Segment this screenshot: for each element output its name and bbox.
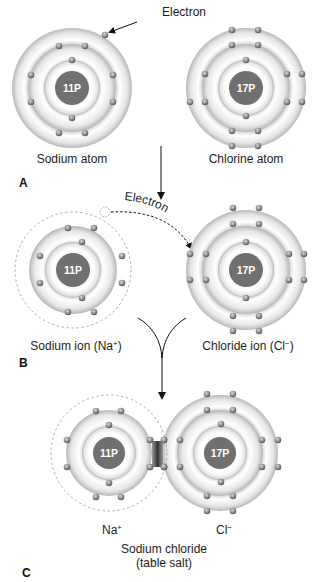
panel-label-b: B xyxy=(19,357,28,370)
compound-label: Sodium chloride xyxy=(121,543,207,556)
empty-electron-position xyxy=(100,207,110,217)
electron-callout-pointer xyxy=(110,22,137,32)
chloride-ion-text: Chloride ion (Cl xyxy=(202,339,285,353)
sodium-ion-text: Sodium ion (Na xyxy=(30,339,113,353)
nacl-sodium-nucleus-label: 11P xyxy=(100,447,118,459)
sodium-nucleus-label: 11P xyxy=(63,82,81,94)
electron-callout-label: Electron xyxy=(162,6,206,19)
diagram-canvas: 11P 17P 11P 17P 11P 17P Electron xyxy=(0,0,322,582)
compound-sublabel: (table salt) xyxy=(136,557,192,570)
cl-text: Cl xyxy=(216,523,227,537)
panel-label-c: C xyxy=(22,567,31,580)
ionic-bond xyxy=(152,441,163,467)
electron-transfer-arrow xyxy=(111,212,191,248)
ionic-bond-diagram: 11P 17P 11P 17P 11P 17P Electron Electro… xyxy=(0,0,322,582)
sodium-ion-close: ) xyxy=(118,339,122,353)
sodium-ion-label: Sodium ion (Na+) xyxy=(30,337,121,353)
panel-label-a: A xyxy=(19,177,28,190)
na-ion-label: Na+ xyxy=(102,521,122,537)
chloride-ion-nucleus-label: 17P xyxy=(237,264,256,276)
valence-electron xyxy=(102,32,109,39)
na-text: Na xyxy=(102,523,117,537)
electron-transfer-label: Electron xyxy=(124,189,171,215)
merge-arrow-b-to-c xyxy=(138,318,186,398)
cl-ion-label: Cl− xyxy=(216,521,232,537)
chloride-ion-close: ) xyxy=(290,339,294,353)
nacl-chlorine-nucleus-label: 17P xyxy=(211,447,230,459)
sodium-atom-label: Sodium atom xyxy=(37,153,108,166)
cl-charge: − xyxy=(227,523,232,532)
sodium-ion-nucleus-label: 11P xyxy=(64,264,82,276)
na-charge: + xyxy=(117,523,122,532)
chlorine-nucleus-label: 17P xyxy=(237,82,256,94)
chlorine-atom-label: Chlorine atom xyxy=(209,153,284,166)
chloride-ion-label: Chloride ion (Cl−) xyxy=(202,337,293,353)
